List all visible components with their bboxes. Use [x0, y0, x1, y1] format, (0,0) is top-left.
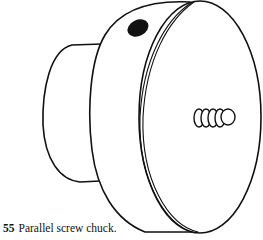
chuck-illustration [0, 0, 263, 240]
caption-text: Parallel screw chuck. [19, 222, 117, 234]
screw-icon [194, 109, 235, 127]
figure-number: 55 [3, 222, 15, 234]
figure-caption: 55Parallel screw chuck. [3, 222, 117, 234]
